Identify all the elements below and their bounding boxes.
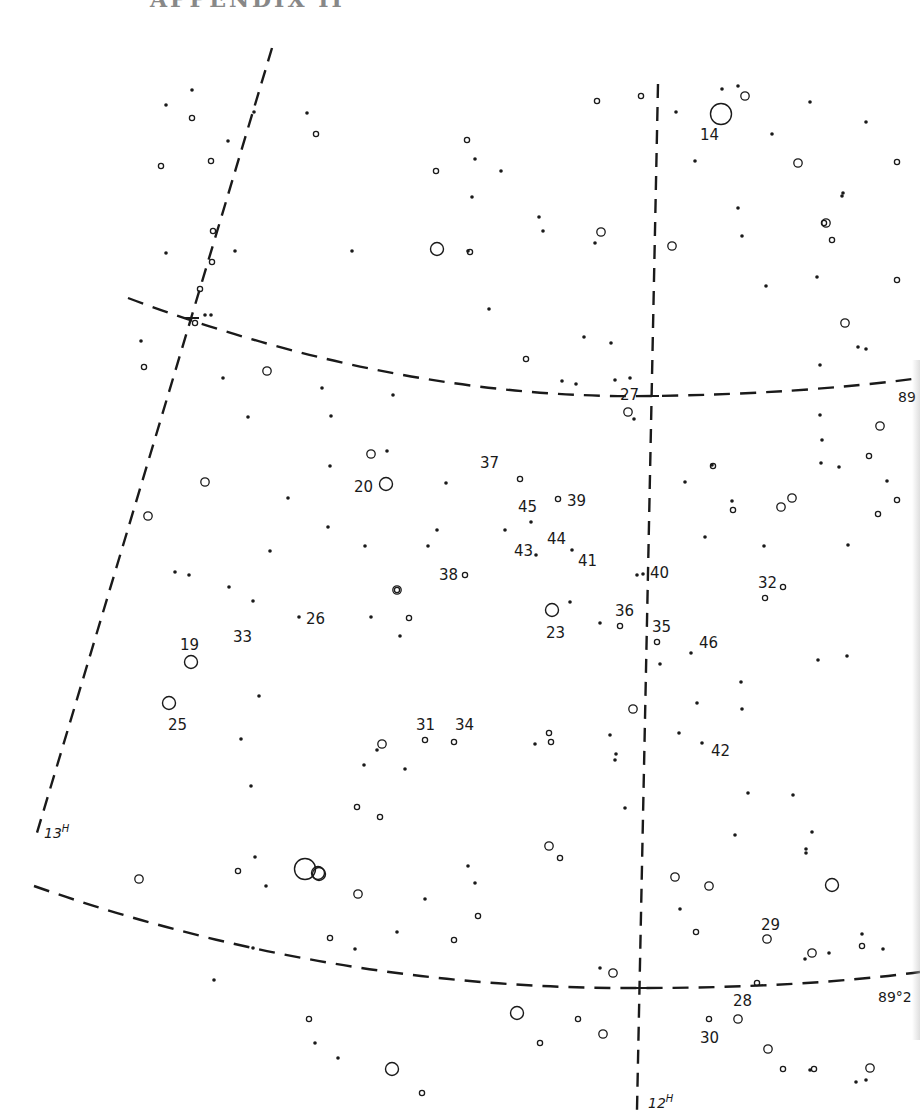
star-small (406, 615, 411, 620)
faint-star-dot (403, 767, 407, 771)
star-medium (705, 882, 713, 890)
star-small (555, 496, 560, 501)
star-large (380, 478, 393, 491)
faint-star-dot (286, 496, 290, 500)
star-small (693, 929, 698, 934)
star-small (422, 737, 427, 742)
faint-star-dot (363, 544, 367, 548)
star-small (594, 98, 599, 103)
faint-star-dot (628, 376, 632, 380)
faint-star-dot (470, 195, 474, 199)
faint-star-dot (533, 742, 537, 746)
faint-star-dot (297, 615, 301, 619)
faint-star-dot (466, 864, 470, 868)
star-medium (876, 422, 884, 430)
faint-star-dot (336, 1056, 340, 1060)
faint-star-dot (529, 520, 533, 524)
faint-star-dot (740, 707, 744, 711)
faint-star-dot (353, 947, 357, 951)
star-small (313, 131, 318, 136)
faint-star-dot (739, 680, 743, 684)
faint-star-dot (764, 284, 768, 288)
star-large (546, 604, 559, 617)
faint-star-dot (841, 191, 845, 195)
star-medium (764, 1045, 772, 1053)
star-small (829, 237, 834, 242)
star-medium (808, 949, 816, 957)
star-small (327, 935, 332, 940)
star-number-label: 40 (650, 564, 669, 582)
star-number-label: 45 (518, 498, 537, 516)
star-small (377, 814, 382, 819)
star-small (158, 163, 163, 168)
faint-star-dot (362, 763, 366, 767)
faint-star-dot (534, 553, 538, 557)
star-medium (788, 494, 796, 502)
faint-star-dot (503, 528, 507, 532)
star-small (780, 584, 785, 589)
star-number-label: 31 (416, 716, 435, 734)
faint-star-dot (683, 480, 687, 484)
faint-star-dot (251, 599, 255, 603)
faint-star-dot (369, 615, 373, 619)
faint-star-dot (613, 378, 617, 382)
faint-star-dot (328, 464, 332, 468)
faint-star-dot (251, 946, 255, 950)
faint-star-dot (837, 465, 841, 469)
faint-star-dot (570, 548, 574, 552)
star-number-label: 25 (168, 716, 187, 734)
star-number-label: 14 (700, 126, 719, 144)
ra-line-1 (637, 84, 658, 1110)
faint-star-dot (703, 535, 707, 539)
faint-star-dot (233, 249, 237, 253)
faint-star-dot (249, 784, 253, 788)
star-number-label: 23 (546, 624, 565, 642)
faint-star-dot (398, 634, 402, 638)
star-medium (624, 408, 632, 416)
star-small (192, 320, 197, 325)
star-small (706, 1016, 711, 1021)
faint-star-dot (730, 499, 734, 503)
star-small (210, 228, 215, 233)
page-edge-shadow (912, 360, 920, 1040)
faint-star-dot (385, 449, 389, 453)
star-number-label: 27 (620, 386, 639, 404)
star-medium (671, 873, 679, 881)
faint-star-dot (568, 600, 572, 604)
star-large (431, 243, 444, 256)
star-medium (378, 740, 386, 748)
faint-star-dot (598, 621, 602, 625)
faint-star-dot (846, 543, 850, 547)
star-small (575, 1016, 580, 1021)
faint-star-dot (246, 415, 250, 419)
star-medium (609, 969, 617, 977)
star-medium (201, 478, 209, 486)
faint-star-dot (268, 549, 272, 553)
faint-star-dot (209, 313, 213, 317)
star-small (475, 913, 480, 918)
faint-star-dot (678, 907, 682, 911)
faint-star-dot (375, 748, 379, 752)
star-small (548, 739, 553, 744)
star-small (451, 937, 456, 942)
star-small (189, 115, 194, 120)
faint-star-dot (173, 570, 177, 574)
star-medium (354, 890, 362, 898)
faint-star-dot (818, 363, 822, 367)
faint-star-dot (635, 573, 639, 577)
faint-star-dot (864, 1078, 868, 1082)
star-small (894, 497, 899, 502)
star-small (894, 159, 899, 164)
faint-star-dot (226, 139, 230, 143)
faint-star-dot (473, 881, 477, 885)
star-medium (263, 367, 271, 375)
faint-star-dot (819, 461, 823, 465)
faint-star-dot (395, 930, 399, 934)
faint-star-dot (164, 103, 168, 107)
dec-line-0 (128, 298, 920, 396)
star-number-label: 42 (711, 742, 730, 760)
star-medium (599, 1030, 607, 1038)
star-medium (777, 503, 785, 511)
faint-star-dot (326, 525, 330, 529)
faint-star-dot (164, 251, 168, 255)
